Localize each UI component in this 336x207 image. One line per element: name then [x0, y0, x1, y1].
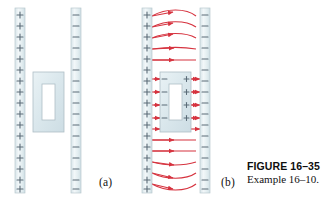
panel-b-right-plate: [200, 8, 210, 193]
panel-a-right-plate: [71, 8, 81, 193]
caption-body: Example 16–10.: [247, 173, 336, 186]
panel-a: [15, 8, 81, 193]
panel-a-conductor-slab: [33, 72, 64, 132]
panel-b-left-plate: [142, 8, 152, 193]
figure-16-35: (a) (b) FIGURE 16–35 Example 16–10.: [0, 0, 336, 207]
panel-a-left-plate: [15, 8, 25, 193]
panel-b: [142, 8, 210, 193]
panel-b-label: (b): [221, 176, 235, 188]
caption-title: FIGURE 16–35: [247, 160, 336, 173]
figure-caption: FIGURE 16–35 Example 16–10.: [247, 160, 336, 186]
panel-a-label: (a): [99, 176, 112, 188]
panel-b-conductor-slab: [160, 72, 191, 132]
